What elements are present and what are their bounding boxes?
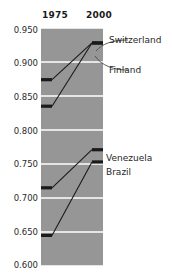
y-axis-tick-0-850: 0.850 bbox=[0, 92, 38, 102]
y-axis-tick-0-900: 0.900 bbox=[0, 58, 38, 68]
plot-area bbox=[41, 28, 103, 266]
y-axis-tick-0-700: 0.700 bbox=[0, 193, 38, 203]
y-axis-tick-0-600: 0.600 bbox=[0, 260, 38, 270]
y-axis-tick-0-800: 0.800 bbox=[0, 126, 38, 136]
column-header-2000: 2000 bbox=[82, 10, 116, 20]
slope-chart: 1975 2000 0.950 0.900 0.850 0.800 0.750 … bbox=[0, 0, 172, 279]
series-label-venezuela: Venezuela bbox=[106, 153, 152, 163]
series-label-switzerland: Switzerland bbox=[109, 35, 162, 45]
y-axis-tick-0-750: 0.750 bbox=[0, 159, 38, 169]
column-header-1975: 1975 bbox=[38, 10, 72, 20]
y-axis-tick-0-950: 0.950 bbox=[0, 25, 38, 35]
series-lines bbox=[52, 43, 92, 235]
plot-svg bbox=[41, 28, 103, 266]
y-axis-tick-0-650: 0.650 bbox=[0, 227, 38, 237]
series-label-finland: Finland bbox=[109, 65, 141, 75]
series-line-venezuela bbox=[52, 150, 92, 188]
series-label-brazil: Brazil bbox=[106, 167, 131, 177]
gridlines bbox=[41, 28, 103, 266]
series-endpoint-markers bbox=[41, 43, 103, 235]
